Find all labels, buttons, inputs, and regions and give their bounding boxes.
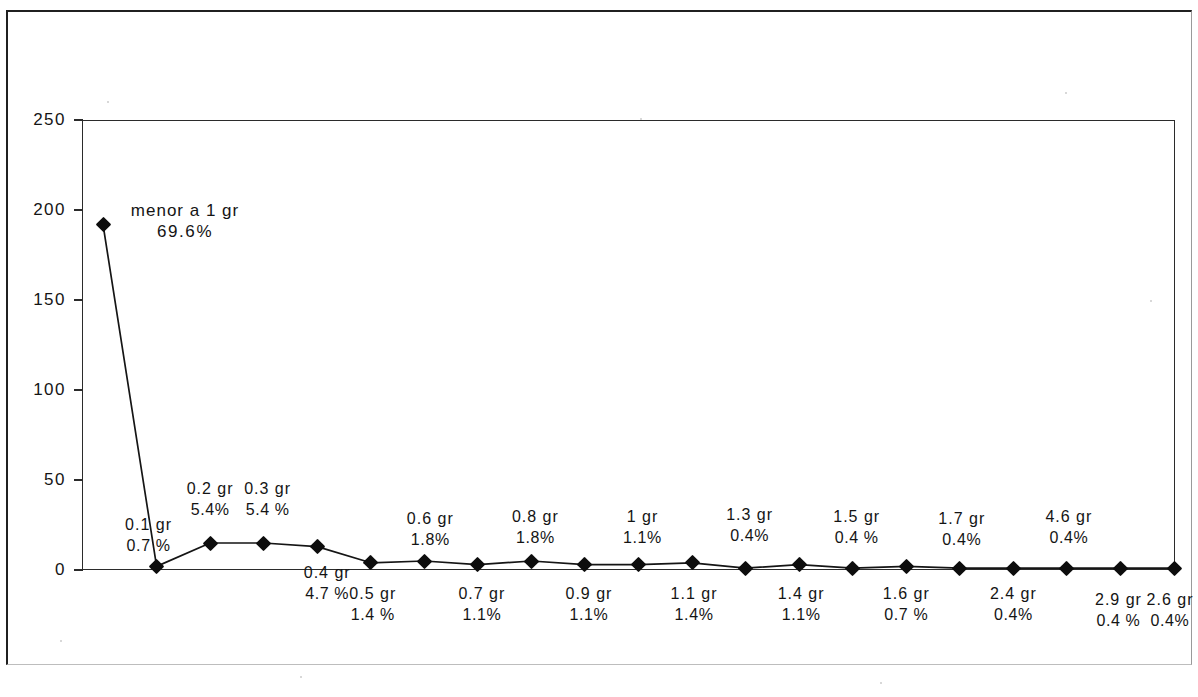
data-point-category: 2.4 gr [990,583,1037,604]
scan-speck [880,682,882,684]
data-point-category: 2.6 gr [1147,589,1194,610]
scanned-page: 050100150200250 menor a 1 gr69.6%0.1 gr0… [0,0,1198,697]
data-point-category: 1.6 gr [883,583,930,604]
data-point-category: 1.4 gr [778,583,825,604]
data-point-category: 0.3 gr [244,478,291,499]
data-point-percent: 1.8% [512,527,559,548]
data-point-category: 0.5 gr [349,583,396,604]
data-point-percent: 0.4% [938,529,985,550]
data-point-percent: 0.4% [726,525,773,546]
data-point-label: 1.1 gr1.4% [671,583,718,625]
data-point-category: 1.1 gr [671,583,718,604]
data-point-percent: 5.4 % [244,499,291,520]
data-point-percent: 1.4 % [349,604,396,625]
data-point-category: 4.6 gr [1045,506,1092,527]
data-point-percent: 0.7 % [883,604,930,625]
data-point-category: 0.6 gr [407,508,454,529]
scan-speck [1065,92,1067,94]
data-point-percent: 0.4% [1147,610,1194,631]
data-point-category: 1.3 gr [726,504,773,525]
data-point-label: 0.9 gr1.1% [565,583,612,625]
data-point-percent: 1.1% [778,604,825,625]
data-point-category: 1.7 gr [938,508,985,529]
data-point-label: menor a 1 gr69.6% [131,200,239,242]
data-point-percent: 0.4% [1045,527,1092,548]
data-point-category: 0.4 gr [304,562,351,583]
scan-speck [60,640,62,642]
data-point-label: 4.6 gr0.4% [1045,506,1092,548]
data-point-label: 0.6 gr1.8% [407,508,454,550]
data-point-category: 0.7 gr [458,583,505,604]
data-point-label: 0.7 gr1.1% [458,583,505,625]
data-point-category: 2.9 gr [1095,589,1142,610]
data-point-percent: 69.6% [131,221,239,242]
data-point-percent: 0.4% [990,604,1037,625]
scan-speck [1150,300,1152,302]
data-point-category: 0.8 gr [512,506,559,527]
data-point-category: 1.5 gr [833,506,880,527]
data-point-category: 0.2 gr [187,478,234,499]
data-point-label: 2.9 gr0.4 % [1095,589,1142,631]
data-point-label: 0.8 gr1.8% [512,506,559,548]
data-point-category: menor a 1 gr [131,200,239,221]
data-point-percent: 1.4% [671,604,718,625]
data-point-label: 2.6 gr0.4% [1147,589,1194,631]
data-point-percent: 1.1% [565,604,612,625]
data-point-label: 0.3 gr5.4 % [244,478,291,520]
data-point-percent: 1.1% [458,604,505,625]
data-point-label: 0.5 gr1.4 % [349,583,396,625]
data-point-label: 1 gr1.1% [623,506,662,548]
data-point-category: 0.1 gr [125,514,172,535]
data-point-label: 0.2 gr5.4% [187,478,234,520]
data-point-category: 1 gr [623,506,662,527]
data-point-percent: 1.8% [407,529,454,550]
data-point-label: 1.5 gr0.4 % [833,506,880,548]
scan-speck [640,118,642,120]
data-point-label: 1.4 gr1.1% [778,583,825,625]
data-point-percent: 0.4 % [833,527,880,548]
data-point-percent: 4.7 % [304,583,351,604]
data-point-label: 0.1 gr0.7 % [125,514,172,556]
data-point-percent: 0.4 % [1095,610,1142,631]
data-point-label: 1.6 gr0.7 % [883,583,930,625]
scan-speck [107,101,109,103]
data-point-label: 1.3 gr0.4% [726,504,773,546]
line-chart: 050100150200250 menor a 1 gr69.6%0.1 gr0… [0,0,1198,697]
data-point-category: 0.9 gr [565,583,612,604]
data-point-percent: 1.1% [623,527,662,548]
data-point-label: 1.7 gr0.4% [938,508,985,550]
data-point-percent: 5.4% [187,499,234,520]
scan-speck [300,676,302,678]
data-point-label: 2.4 gr0.4% [990,583,1037,625]
data-point-label: 0.4 gr4.7 % [304,562,351,604]
data-point-percent: 0.7 % [125,535,172,556]
